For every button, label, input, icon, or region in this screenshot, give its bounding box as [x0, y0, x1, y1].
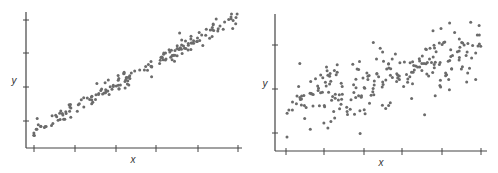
- x-axis-label: x: [130, 154, 137, 165]
- data-point: [39, 125, 42, 128]
- data-point: [332, 110, 335, 113]
- data-point: [470, 57, 473, 60]
- data-point: [297, 85, 300, 88]
- data-point: [458, 49, 461, 52]
- data-point: [54, 114, 57, 117]
- data-point: [424, 48, 427, 51]
- data-point: [354, 78, 357, 81]
- data-point: [381, 81, 384, 84]
- data-point: [50, 124, 53, 127]
- data-point: [447, 78, 450, 81]
- data-point: [350, 98, 353, 101]
- data-point: [138, 69, 141, 72]
- data-point: [372, 41, 375, 44]
- data-point: [235, 16, 238, 19]
- data-point: [405, 73, 408, 76]
- data-point: [354, 96, 357, 99]
- data-point: [299, 98, 302, 101]
- data-point: [127, 76, 130, 79]
- data-point: [298, 62, 301, 65]
- data-point: [420, 69, 423, 72]
- data-point: [428, 58, 431, 61]
- data-point: [391, 76, 394, 79]
- data-point: [429, 47, 432, 50]
- data-point: [448, 21, 451, 24]
- data-point: [165, 58, 168, 61]
- data-point: [82, 96, 85, 99]
- data-point: [418, 65, 421, 68]
- data-point: [371, 90, 374, 93]
- data-point: [216, 30, 219, 33]
- data-point: [377, 75, 380, 78]
- data-point: [112, 84, 115, 87]
- data-point: [396, 77, 399, 80]
- data-point: [231, 27, 234, 30]
- data-point: [333, 69, 336, 72]
- data-point: [327, 91, 330, 94]
- data-point: [359, 132, 362, 135]
- data-point: [323, 104, 326, 107]
- data-point: [379, 47, 382, 50]
- data-point: [232, 19, 235, 22]
- data-point: [324, 81, 327, 84]
- data-point: [402, 85, 405, 88]
- data-point: [59, 118, 62, 121]
- data-point: [389, 74, 392, 77]
- data-point: [435, 50, 438, 53]
- data-point: [478, 24, 481, 27]
- data-point: [466, 42, 469, 45]
- x-axis-label: x: [378, 157, 385, 168]
- data-point: [236, 13, 239, 16]
- data-point: [95, 93, 98, 96]
- data-point: [303, 117, 306, 120]
- data-point: [433, 47, 436, 50]
- data-point: [410, 71, 413, 74]
- data-point: [322, 122, 325, 125]
- data-point: [410, 97, 413, 100]
- data-point: [394, 53, 397, 56]
- data-point: [391, 58, 394, 61]
- data-point: [358, 109, 361, 112]
- data-point: [329, 120, 332, 123]
- data-point: [450, 67, 453, 70]
- data-point: [463, 44, 466, 47]
- data-point: [478, 43, 481, 46]
- data-point: [362, 77, 365, 80]
- data-point: [200, 34, 203, 37]
- data-point: [69, 116, 72, 119]
- data-point: [215, 18, 218, 21]
- data-point: [408, 75, 411, 78]
- data-point: [334, 93, 337, 96]
- data-point: [469, 21, 472, 24]
- data-point: [295, 102, 298, 105]
- data-point: [423, 113, 426, 116]
- data-point: [460, 41, 463, 44]
- data-point: [319, 91, 322, 94]
- data-point: [172, 54, 175, 57]
- data-point: [109, 85, 112, 88]
- data-point: [471, 44, 474, 47]
- data-point: [222, 28, 225, 31]
- data-point: [431, 71, 434, 74]
- data-point: [465, 81, 468, 84]
- data-point: [180, 44, 183, 47]
- data-point: [438, 84, 441, 87]
- data-point: [438, 42, 441, 45]
- data-point: [345, 106, 348, 109]
- data-point: [413, 69, 416, 72]
- data-point: [173, 60, 176, 63]
- data-point: [107, 79, 110, 82]
- data-point: [326, 69, 329, 72]
- data-point: [325, 85, 328, 88]
- data-point: [451, 54, 454, 57]
- data-point: [316, 85, 319, 88]
- data-point: [333, 116, 336, 119]
- data-point: [444, 72, 447, 75]
- data-point: [375, 72, 378, 75]
- data-point: [474, 78, 477, 81]
- data-point: [329, 80, 332, 83]
- data-point: [312, 105, 315, 108]
- data-point: [318, 104, 321, 107]
- data-point: [363, 108, 366, 111]
- data-point: [176, 54, 179, 57]
